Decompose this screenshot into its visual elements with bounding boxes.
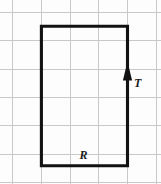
figure-container: T R [0,0,161,184]
rectangular-loop-diagram: T R [0,0,161,184]
label-current-T: T [134,76,142,90]
label-resistance-R: R [79,148,88,162]
